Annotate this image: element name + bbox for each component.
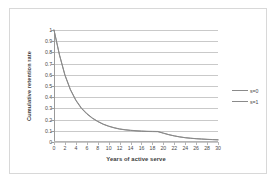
x-axis-tick-label: 0 xyxy=(53,145,56,151)
x-axis-title: Years of active serve xyxy=(54,156,218,162)
screenshot-root: Cumulative retention rate 00.10.20.30.40… xyxy=(0,0,277,187)
x-axis-tick-label: 2 xyxy=(64,145,67,151)
series-line xyxy=(54,30,218,140)
chart-legend: s=0s=1 xyxy=(232,85,274,107)
x-axis-tick-label: 8 xyxy=(96,145,99,151)
gridline xyxy=(54,142,218,143)
legend-line-icon xyxy=(232,90,248,91)
x-axis-tick-labels: 024681012141618202224262830 xyxy=(54,145,218,154)
legend-item[interactable]: s=1 xyxy=(232,96,274,107)
chart-figure-frame: Cumulative retention rate 00.10.20.30.40… xyxy=(9,8,267,174)
x-axis-tick-label: 22 xyxy=(171,145,177,151)
x-axis-tick-label: 20 xyxy=(161,145,167,151)
x-axis-tick-label: 24 xyxy=(182,145,188,151)
x-axis-tick-label: 28 xyxy=(204,145,210,151)
x-axis-tick-label: 18 xyxy=(150,145,156,151)
legend-item[interactable]: s=0 xyxy=(232,85,274,96)
x-axis-tick-label: 6 xyxy=(85,145,88,151)
series-line xyxy=(54,30,218,140)
x-axis-tick-label: 10 xyxy=(106,145,112,151)
y-axis-tick-labels: 00.10.20.30.40.50.60.70.80.91 xyxy=(30,30,52,142)
legend-item-label: s=0 xyxy=(250,88,258,94)
x-axis-tick-label: 14 xyxy=(128,145,134,151)
plot-area xyxy=(54,30,218,142)
legend-item-label: s=1 xyxy=(250,99,258,105)
x-axis-tick-label: 30 xyxy=(215,145,221,151)
x-axis-tick-label: 4 xyxy=(74,145,77,151)
legend-line-icon xyxy=(232,101,248,102)
x-axis-tick-label: 16 xyxy=(139,145,145,151)
x-axis-tick-label: 26 xyxy=(193,145,199,151)
retention-curves xyxy=(54,30,218,142)
x-axis-tick-label: 12 xyxy=(117,145,123,151)
